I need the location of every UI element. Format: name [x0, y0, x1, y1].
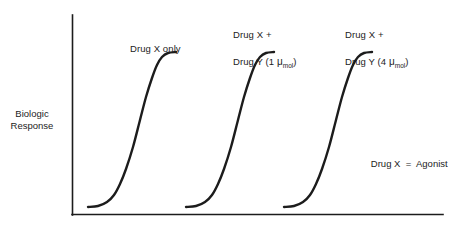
dose-response-figure: Biologic Response Drug X only Drug X + D…: [0, 0, 476, 236]
curve-label-3-line-2: Drug Y (4 μmol): [345, 56, 409, 67]
curve-label-3-prefix: Drug Y (4: [345, 56, 389, 67]
curve-label-drug-x-plus-y-4: Drug X + Drug Y (4 μmol): [334, 14, 409, 85]
curve-label-2-line-1: Drug X +: [233, 29, 272, 40]
legend-drug-x-text: Drug X = Agonist: [371, 158, 448, 169]
curve-label-drug-x-plus-y-1: Drug X + Drug Y (1 μmol): [222, 14, 297, 85]
mol-subscript: mol: [283, 61, 293, 68]
mol-subscript: mol: [395, 61, 405, 68]
curve-label-1-line-1: Drug X only: [130, 43, 181, 54]
curve-label-2-suffix: ): [293, 56, 296, 67]
legend-row-drug-y: Drug Y = Competitive Antagonist: [355, 222, 466, 236]
curve-label-2-line-2: Drug Y (1 μmol): [233, 56, 297, 67]
curve-label-3-line-1: Drug X +: [345, 29, 384, 40]
legend: Drug X = Agonist Drug Y = Competitive An…: [355, 118, 466, 236]
curve-label-drug-x-only: Drug X only: [119, 28, 181, 69]
y-axis-title-line-1: Biologic: [15, 108, 48, 119]
curve-label-3-suffix: ): [405, 56, 408, 67]
dose-response-curve-1: [88, 52, 176, 207]
curve-label-2-prefix: Drug Y (1: [233, 56, 277, 67]
y-axis-title: Biologic Response: [0, 108, 64, 132]
legend-row-drug-x: Drug X = Agonist: [355, 144, 466, 183]
y-axis-title-line-2: Response: [11, 120, 54, 131]
